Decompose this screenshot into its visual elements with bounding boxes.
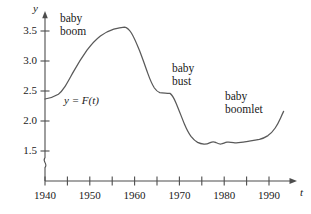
x-tick-label-1950: 1950 [70, 189, 110, 201]
x-axis-label: t [300, 186, 303, 198]
y-tick-label-1-5: 1.5 [12, 144, 37, 156]
y-tick-label-3-0: 3.0 [12, 54, 37, 66]
annotation-baby-boom: baby boom [60, 12, 86, 38]
x-tick-label-1980: 1980 [204, 189, 244, 201]
annotation-baby-bust-line1: baby [172, 62, 194, 75]
annotation-baby-bust-line2: bust [172, 75, 194, 88]
annotation-baby-boomlet-line2: boomlet [225, 103, 263, 116]
y-tick-label-2-0: 2.0 [12, 114, 37, 126]
x-tick-label-1990: 1990 [249, 189, 289, 201]
annotation-baby-bust: baby bust [172, 62, 194, 88]
y-axis-label: y [33, 2, 38, 14]
y-tick-label-2-5: 2.5 [12, 84, 37, 96]
annotation-baby-boom-line2: boom [60, 25, 86, 38]
y-axis [42, 11, 48, 181]
chart-canvas [0, 0, 311, 214]
x-tick-label-1960: 1960 [115, 189, 155, 201]
y-tick-label-3-5: 3.5 [12, 24, 37, 36]
annotation-baby-boomlet-line1: baby [225, 90, 263, 103]
x-axis [45, 178, 297, 184]
annotation-baby-boomlet: baby boomlet [225, 90, 263, 116]
chart-figure: y t 3.5 3.0 2.5 2.0 1.5 1940 1950 1960 1… [0, 0, 311, 214]
annotation-baby-boom-line1: baby [60, 12, 86, 25]
x-tick-label-1970: 1970 [159, 189, 199, 201]
birth-rate-curve [45, 27, 284, 144]
x-tick-label-1940: 1940 [25, 189, 65, 201]
function-label: y = F(t) [64, 94, 99, 106]
